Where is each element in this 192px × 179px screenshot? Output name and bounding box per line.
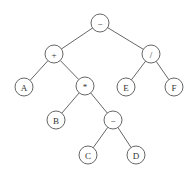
tree-node-C: C [79,146,97,164]
expression-tree-diagram: −+/A*EFB−CD [0,0,192,179]
node-label: D [133,151,140,161]
node-label: A [21,83,28,93]
edge-div-F [156,61,169,79]
tree-node-A: A [15,78,33,96]
node-label: + [51,50,56,60]
edge-div-E [131,61,145,80]
edge-minus-C [93,127,108,147]
tree-node-plus: + [45,45,63,63]
tree-node-mul: * [76,77,94,95]
edge-plus-A [30,61,48,81]
edge-plus-mul [60,60,78,79]
tree-node-D: D [127,146,145,164]
edge-root-div [108,28,144,50]
node-label: − [110,116,115,126]
tree-node-B: B [47,111,65,129]
node-label: B [53,116,59,126]
node-label: F [171,83,176,93]
edge-mul-B [62,93,79,113]
node-label: − [97,19,102,29]
edge-minus-D [118,128,131,148]
tree-node-minus: − [104,111,122,129]
node-label: * [83,82,88,92]
tree-node-E: E [117,78,135,96]
tree-node-root: − [91,14,109,32]
node-label: C [85,151,91,161]
node-label: E [123,83,129,93]
edge-mul-minus [91,93,108,113]
tree-node-F: F [165,78,183,96]
tree-nodes: −+/A*EFB−CD [15,14,183,164]
edge-root-plus [61,28,92,49]
tree-node-div: / [142,45,160,63]
